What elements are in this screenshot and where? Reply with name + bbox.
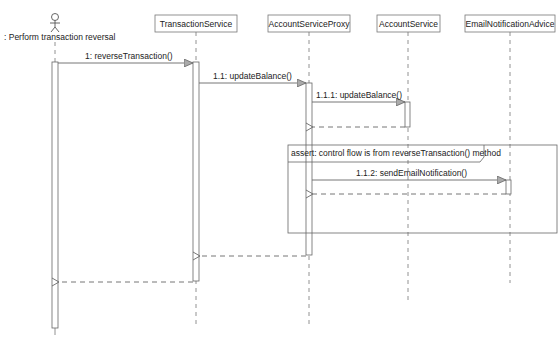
message-label: 1.1.2: sendEmailNotification()	[356, 168, 467, 178]
lifeline-label: AccountServiceProxy	[269, 19, 351, 29]
actor-label: : Perform transaction reversal	[4, 32, 116, 42]
assert-fragment: assert: control flow is from reverseTran…	[288, 145, 557, 233]
lifeline-label: EmailNotificationAdvice	[466, 19, 555, 29]
activation-bars	[52, 62, 511, 328]
lifeline-transaction-service: TransactionService	[155, 15, 237, 32]
actor-icon	[50, 14, 60, 33]
message-label: 1.1.1: updateBalance()	[316, 90, 402, 100]
lifeline-account-service: AccountService	[377, 15, 440, 32]
lifeline-email-notification-advice: EmailNotificationAdvice	[465, 15, 555, 32]
sequence-diagram: : Perform transaction reversal Transacti…	[0, 0, 560, 343]
lifeline-label: AccountService	[379, 19, 438, 29]
fragment-label: assert: control flow is from reverseTran…	[291, 148, 501, 158]
lifeline-account-service-proxy: AccountServiceProxy	[268, 15, 350, 32]
lifeline-label: TransactionService	[160, 19, 233, 29]
message-label: 1: reverseTransaction()	[85, 51, 173, 61]
message-label: 1.1: updateBalance()	[213, 71, 292, 81]
